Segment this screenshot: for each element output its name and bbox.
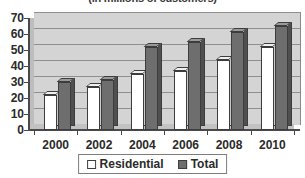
bar-face xyxy=(261,47,274,130)
bar-group xyxy=(251,18,294,130)
bar-group xyxy=(207,18,250,130)
bar-face xyxy=(87,87,100,130)
bar-side xyxy=(158,43,162,126)
x-tick-label-2008: 2008 xyxy=(216,138,243,152)
legend-label: Residential xyxy=(100,157,164,171)
y-tick-label: 40 xyxy=(11,59,24,73)
y-tick-mark xyxy=(24,130,28,131)
bar-total-2002[interactable] xyxy=(101,80,114,130)
bar-face xyxy=(145,47,158,130)
y-tick-label: 10 xyxy=(11,107,24,121)
bar-residential-2010[interactable] xyxy=(261,47,274,130)
bar-face xyxy=(131,74,144,130)
bar-total-2010[interactable] xyxy=(275,26,288,130)
bar-face xyxy=(44,95,57,130)
legend-swatch-total-icon xyxy=(178,160,187,169)
y-tick-mark xyxy=(24,18,28,19)
bar-residential-2000[interactable] xyxy=(44,95,57,130)
y-tick-label: 0 xyxy=(17,123,24,137)
bar-face xyxy=(275,26,288,130)
bar-total-2008[interactable] xyxy=(231,32,244,130)
legend-item-residential[interactable]: Residential xyxy=(87,157,164,171)
x-tick-label-2010: 2010 xyxy=(259,138,286,152)
bar-residential-2002[interactable] xyxy=(87,87,100,130)
chart-legend: ResidentialTotal xyxy=(78,154,228,174)
bar-face xyxy=(58,82,71,130)
x-tick-mark xyxy=(77,131,78,135)
bar-group xyxy=(164,18,207,130)
bar-residential-2008[interactable] xyxy=(217,60,230,130)
y-tick-mark xyxy=(24,98,28,99)
legend-item-total[interactable]: Total xyxy=(178,157,219,171)
bar-face xyxy=(174,71,187,130)
x-tick-mark xyxy=(294,131,295,135)
bar-group xyxy=(77,18,120,130)
x-tick-label-2004: 2004 xyxy=(129,138,156,152)
bar-residential-2006[interactable] xyxy=(174,71,187,130)
plot-area: 010203040506070 200020022004200620082010 xyxy=(28,12,300,130)
legend-label: Total xyxy=(191,157,219,171)
x-tick-mark xyxy=(207,131,208,135)
y-tick-mark xyxy=(24,82,28,83)
y-tick-mark xyxy=(24,34,28,35)
y-axis-line xyxy=(28,18,30,130)
x-tick-label-2006: 2006 xyxy=(172,138,199,152)
bar-face xyxy=(188,42,201,130)
y-tick-label: 50 xyxy=(11,43,24,57)
bar-side xyxy=(114,76,118,126)
bar-side xyxy=(71,78,75,126)
bar-face xyxy=(231,32,244,130)
bar-residential-2004[interactable] xyxy=(131,74,144,130)
bar-face xyxy=(101,80,114,130)
y-tick-label: 70 xyxy=(11,11,24,25)
x-tick-label-2000: 2000 xyxy=(42,138,69,152)
x-tick-mark xyxy=(34,131,35,135)
y-tick-label: 30 xyxy=(11,75,24,89)
bar-side xyxy=(201,38,205,126)
x-tick-mark xyxy=(121,131,122,135)
bar-side xyxy=(288,22,292,126)
bar-total-2006[interactable] xyxy=(188,42,201,130)
bar-total-2004[interactable] xyxy=(145,47,158,130)
x-tick-mark xyxy=(164,131,165,135)
bar-group xyxy=(121,18,164,130)
y-tick-mark xyxy=(24,50,28,51)
y-tick-label: 20 xyxy=(11,91,24,105)
bar-side xyxy=(244,28,248,126)
bar-face xyxy=(217,60,230,130)
chart-title: (in millions of customers) xyxy=(0,0,305,4)
bar-group xyxy=(34,18,77,130)
x-tick-label-2002: 2002 xyxy=(86,138,113,152)
y-tick-mark xyxy=(24,66,28,67)
bar-total-2000[interactable] xyxy=(58,82,71,130)
x-tick-mark xyxy=(251,131,252,135)
legend-swatch-residential-icon xyxy=(87,160,96,169)
y-tick-label: 60 xyxy=(11,27,24,41)
gridline xyxy=(34,12,300,13)
y-tick-mark xyxy=(24,114,28,115)
